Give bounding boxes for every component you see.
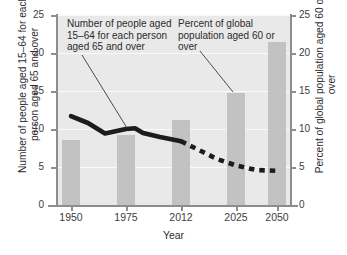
y-label-right-25: 25 [299,10,310,20]
x-label-2050: 2050 [254,211,300,223]
leader-bar-annotation [200,51,233,92]
y-axis-right-title: Percent of global population aged 60 or … [314,0,339,177]
x-label-2012: 2012 [158,211,204,223]
y-label-left-0: 0 [38,200,44,210]
y-tick-right-25 [291,15,296,17]
y-tick-left-5 [51,167,56,169]
y-label-right-5: 5 [299,162,305,172]
y-tick-left-10 [51,129,56,131]
x-label-1975: 1975 [103,211,149,223]
y-axis-right-line [290,14,292,206]
leader-line-annotation [82,55,127,128]
x-axis-title: Year [0,229,347,241]
y-label-right-0: 0 [299,200,305,210]
y-tick-right-0 [291,205,296,207]
x-axis-line [48,205,298,207]
x-label-1950: 1950 [48,211,94,223]
y-tick-right-5 [291,167,296,169]
y-axis-left-line [56,14,58,206]
figure-population-ageing: 0 5 10 15 20 25 0 5 10 15 20 25 1950 197… [0,0,347,255]
y-label-right-20: 20 [299,48,310,58]
y-tick-right-15 [291,91,296,93]
y-tick-right-20 [291,53,296,55]
y-tick-left-20 [51,53,56,55]
y-label-right-10: 10 [299,124,310,134]
bar-annotation-text: Percent of global population aged 60 or … [178,18,282,53]
line-annotation-text: Number of people aged 15–64 for each per… [67,18,177,53]
y-tick-left-0 [51,205,56,207]
y-tick-right-10 [291,129,296,131]
y-tick-left-25 [51,15,56,17]
y-label-right-15: 15 [299,86,310,96]
y-axis-left-title: Number of people aged 15–64 for each per… [17,0,42,177]
x-label-2025: 2025 [213,211,259,223]
y-tick-left-15 [51,91,56,93]
